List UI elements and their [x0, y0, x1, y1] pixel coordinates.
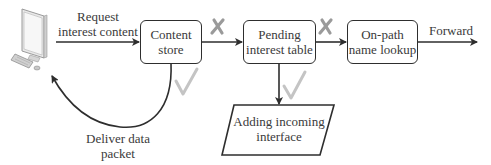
adding-interface-label: Adding incoming interface [230, 114, 328, 144]
deliver-line1: Deliver data [78, 131, 158, 146]
lookup-line2: name lookup [349, 42, 417, 57]
desktop-computer-icon [11, 9, 47, 70]
check-mark-icon [176, 69, 197, 94]
request-label: Request interest content [56, 9, 140, 39]
check-mark-icon [284, 72, 305, 98]
cross-mark-icon [320, 20, 331, 33]
cross-mark-icon [212, 20, 223, 33]
lookup-line1: On-path [361, 27, 404, 42]
pending-interest-table-box: Pending interest table [243, 20, 316, 64]
request-label-line1: Request [56, 9, 140, 24]
on-path-lookup-box: On-path name lookup [347, 20, 418, 64]
pit-line1: Pending [258, 27, 301, 42]
deliver-arrow [52, 63, 171, 127]
content-store-box: Content store [140, 20, 202, 64]
deliver-line2: packet [78, 146, 158, 161]
forward-label: Forward [421, 23, 481, 38]
deliver-label: Deliver data packet [78, 131, 158, 161]
adding-line1: Adding incoming [230, 114, 328, 129]
adding-line2: interface [230, 129, 328, 144]
pit-line2: interest table [246, 42, 313, 57]
content-store-line2: store [158, 42, 183, 57]
request-label-line2: interest content [56, 24, 140, 39]
content-store-line1: Content [150, 27, 191, 42]
